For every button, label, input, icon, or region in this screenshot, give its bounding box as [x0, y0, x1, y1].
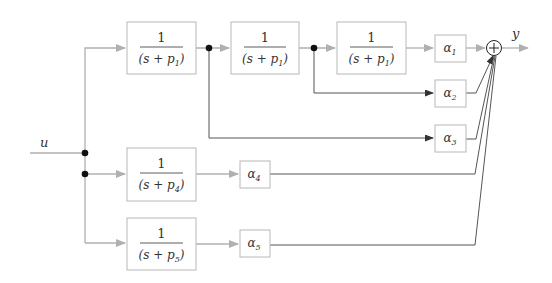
gain-alpha-3: α3	[435, 125, 466, 152]
transfer-block-5: 1 (s + p5)	[127, 218, 196, 270]
svg-text:1: 1	[157, 30, 165, 45]
gain-alpha-4: α4	[240, 161, 270, 188]
svg-text:1: 1	[261, 30, 269, 45]
output-label: y	[511, 26, 520, 41]
gain-alpha-5: α5	[240, 230, 270, 257]
svg-text:1: 1	[367, 30, 375, 45]
gain-alpha-1: α1	[435, 35, 466, 62]
transfer-block-4: 1 (s + p4)	[127, 148, 196, 201]
svg-text:1: 1	[157, 156, 165, 171]
input-label: u	[40, 135, 48, 150]
svg-text:1: 1	[157, 226, 165, 241]
transfer-block-2: 1 (s + p1)	[231, 22, 299, 74]
summing-junction	[487, 41, 502, 56]
block-diagram: 1 (s + p1) 1 (s + p1) 1 (s + p1) 1 (s + …	[0, 0, 552, 283]
transfer-block-3: 1 (s + p1)	[337, 22, 406, 74]
input-bus	[85, 48, 125, 243]
transfer-block-1: 1 (s + p1)	[127, 22, 196, 74]
gain-alpha-2: α2	[435, 80, 466, 107]
